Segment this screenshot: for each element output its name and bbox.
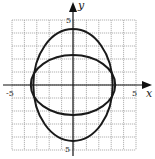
y-tick-neg5: 5: [65, 145, 70, 154]
y-tick-pos5: 5: [66, 16, 71, 25]
y-axis-arrow-icon: [69, 2, 77, 12]
ellipse-graph: x y -5 5 5 5: [0, 0, 155, 159]
x-tick-pos5: 5: [132, 89, 137, 98]
y-axis-label: y: [77, 0, 85, 12]
x-axis-label: x: [146, 87, 153, 100]
x-tick-neg5: -5: [6, 89, 14, 98]
